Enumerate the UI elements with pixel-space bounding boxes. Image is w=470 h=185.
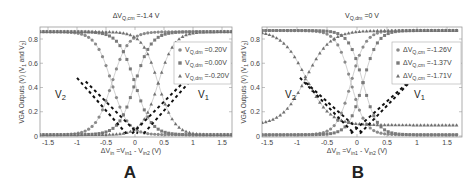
x-tick-label: 0.5 [382, 139, 392, 146]
x-tick-label: -1.5 [42, 139, 54, 146]
y-axis-label: VGA Outputs (V) (V1 and V2) [240, 40, 249, 123]
y-tick-label: 0.2 [28, 108, 38, 115]
chart-title: VQ,dm =0 V [345, 12, 379, 21]
figure: ΔVQ,cm =-1.4 V00.20.40.60.8-1.5-1-0.500.… [0, 0, 470, 185]
dashed-trace [144, 78, 193, 134]
panel-label: B [352, 163, 364, 182]
dashed-trace [132, 81, 184, 133]
annotation-v1: V1 [198, 89, 209, 102]
x-tick-label: -1 [74, 139, 80, 146]
x-axis-label: ΔVin =Vin1 - Vin2 (V) [101, 147, 161, 156]
x-tick-label: 0 [133, 139, 137, 146]
chart-panel-a: ΔVQ,cm =-1.4 V00.20.40.60.8-1.5-1-0.500.… [18, 12, 233, 182]
legend: ΔVQ,cm =-1.26VΔVQ,cm =-1.37VΔVQ,cm =-1.7… [392, 42, 461, 84]
y-tick-label: 0.8 [250, 36, 260, 43]
y-tick-label: 0.8 [28, 36, 38, 43]
chart-title: ΔVQ,cm =-1.4 V [113, 12, 160, 21]
y-tick-label: 0.6 [250, 60, 260, 67]
x-tick-label: 1 [415, 139, 419, 146]
y-tick-label: 0 [34, 133, 38, 140]
x-tick-label: 0.5 [159, 139, 169, 146]
annotation-v2: V2 [285, 89, 296, 102]
dashed-trace [300, 78, 354, 134]
x-tick-label: -0.5 [100, 139, 112, 146]
annotation-v2: V2 [55, 89, 66, 102]
y-tick-label: 0.4 [250, 84, 260, 91]
legend: VQ,dm =0.20VVQ,dm =0.00VVQ,dm =-0.20V [174, 42, 231, 84]
y-tick-label: 0.2 [250, 108, 260, 115]
x-tick-label: -0.5 [321, 139, 333, 146]
y-tick-label: 0.6 [28, 60, 38, 67]
x-tick-label: 1.5 [217, 139, 227, 146]
panel-label: A [124, 163, 136, 182]
dashed-trace [77, 78, 126, 134]
x-tick-label: 1.5 [442, 139, 452, 146]
dashed-trace [86, 81, 138, 133]
y-tick-label: 0 [256, 133, 260, 140]
y-tick-label: 0.4 [28, 84, 38, 91]
x-tick-label: -1.5 [261, 139, 273, 146]
chart-panel-b: VQ,dm =0 V00.20.40.60.8-1.5-1-0.500.511.… [240, 12, 462, 182]
annotation-v1: V1 [414, 89, 425, 102]
x-axis-label: ΔVin =Vin1 - Vin2 (V) [327, 147, 387, 156]
x-tick-label: 0 [355, 139, 359, 146]
y-axis-label: VGA Outputs (V) (V1 and V2) [18, 40, 27, 123]
x-tick-label: -1 [294, 139, 300, 146]
x-tick-label: 1 [191, 139, 195, 146]
